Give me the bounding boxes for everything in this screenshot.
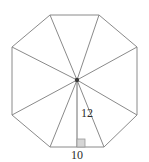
right-angle-marker-icon [77, 139, 85, 147]
center-point-marker [75, 78, 79, 82]
side-label: 10 [71, 148, 83, 162]
spoke-to-bottom-left [50, 80, 77, 147]
octagon-figure: 12 10 [0, 0, 149, 162]
spoke-to-left-top [12, 47, 77, 80]
octagon-diagram: 12 10 [0, 0, 149, 162]
apothem-label: 12 [81, 106, 93, 120]
spoke-to-left-bottom [12, 80, 77, 115]
radial-spokes [12, 15, 137, 147]
spoke-to-top-left [50, 15, 77, 80]
